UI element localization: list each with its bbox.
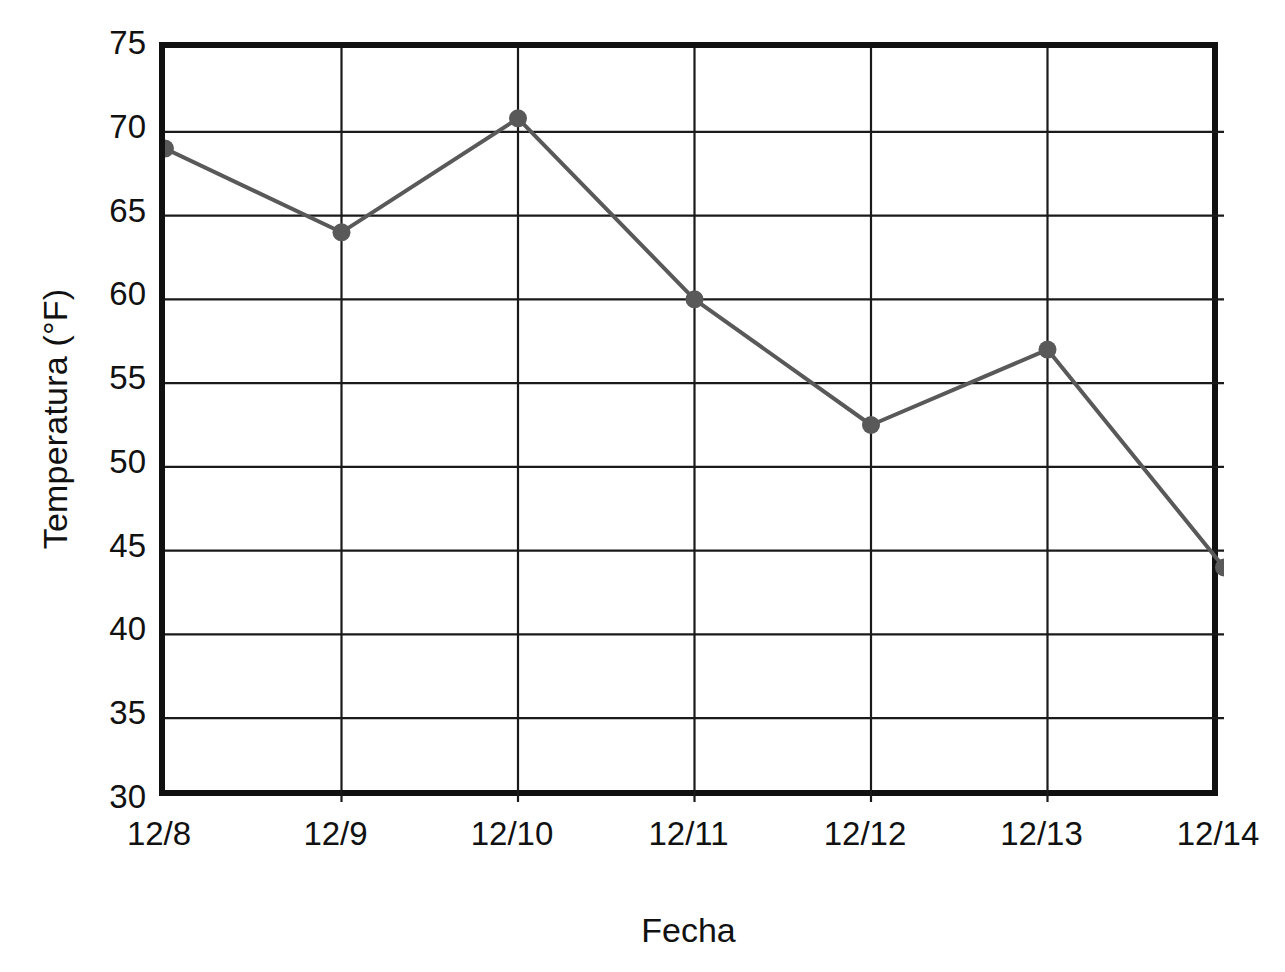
y-axis-tick-label: 75 <box>86 26 146 59</box>
data-point-marker <box>509 109 527 127</box>
x-axis-tick-label: 12/8 <box>69 812 249 856</box>
y-axis-tick-label-group: 75706560555045403530 <box>86 42 146 796</box>
data-point-marker <box>1039 341 1057 359</box>
data-point-marker <box>165 140 174 158</box>
y-axis-tick-label: 35 <box>86 696 146 729</box>
y-axis-tick-label: 65 <box>86 193 146 226</box>
plot-area <box>159 42 1218 796</box>
y-axis-tick-label: 45 <box>86 528 146 561</box>
x-axis-title: Fecha <box>159 908 1218 952</box>
line-chart-figure: Temperatura (°F) 75706560555045403530 12… <box>0 0 1285 972</box>
x-axis-tick-label: 12/10 <box>422 812 602 856</box>
x-axis-tick-label: 12/11 <box>599 812 779 856</box>
plot-svg <box>165 48 1224 802</box>
data-point-marker <box>333 223 351 241</box>
y-axis-tick-label: 50 <box>86 444 146 477</box>
y-axis-tick-label: 70 <box>86 109 146 142</box>
data-point-marker <box>686 290 704 308</box>
x-axis-tick-label-group: 12/812/912/1012/1112/1212/1312/14 <box>159 812 1218 862</box>
y-axis-tick-label: 40 <box>86 612 146 645</box>
x-axis-tick-label: 12/12 <box>775 812 955 856</box>
chart-title <box>0 0 1285 2</box>
y-axis-tick-label: 30 <box>86 780 146 813</box>
data-point-marker <box>862 416 880 434</box>
y-axis-tick-label: 60 <box>86 277 146 310</box>
y-axis-tick-label: 55 <box>86 361 146 394</box>
x-axis-tick-label: 12/14 <box>1128 812 1285 856</box>
x-axis-tick-label: 12/13 <box>952 812 1132 856</box>
vertical-gridlines <box>342 48 1048 802</box>
y-axis-title: Temperatura (°F) <box>32 42 78 796</box>
x-axis-tick-label: 12/9 <box>246 812 426 856</box>
